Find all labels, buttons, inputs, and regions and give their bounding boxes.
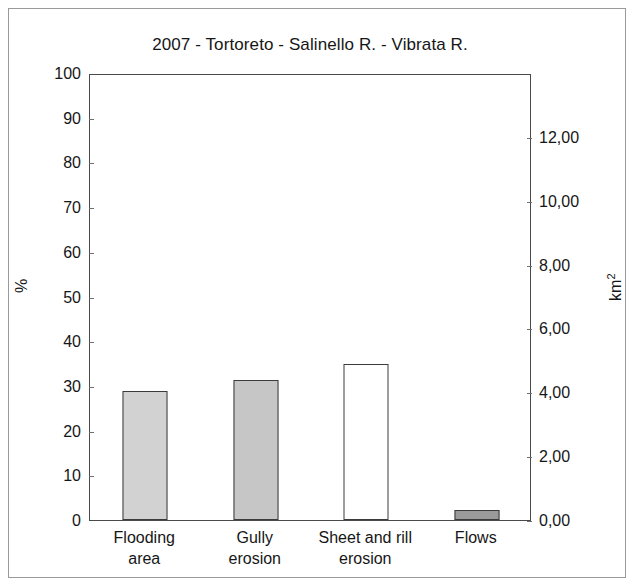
y-axis-left-tick-label: 20 [37, 423, 81, 441]
y-axis-right-tick-label: 0,00 [539, 512, 601, 530]
y-axis-right-tick-label: 8,00 [539, 257, 601, 275]
y-axis-right-tick-label: 12,00 [539, 129, 601, 147]
y-axis-left-tick-mark [89, 163, 94, 164]
y-axis-left-tick-label: 80 [37, 154, 81, 172]
chart-title: 2007 - Tortoreto - Salinello R. - Vibrat… [89, 35, 531, 55]
y-axis-left-tick-label: 0 [37, 512, 81, 530]
y-axis-right-tick-mark [527, 202, 532, 203]
figure-frame: 2007 - Tortoreto - Salinello R. - Vibrat… [8, 8, 626, 578]
bar-slot [201, 75, 312, 520]
y-axis-left-tick-mark [89, 432, 94, 433]
y-axis-left-tick-mark [89, 387, 94, 388]
category-axis-labels: FloodingareaGullyerosionSheet and riller… [89, 527, 531, 575]
y-axis-left-tick-label: 70 [37, 199, 81, 217]
category-label-line: Flows [411, 527, 541, 548]
y-axis-left-tick-label: 50 [37, 289, 81, 307]
y-axis-right-tick-label: 6,00 [539, 320, 601, 338]
y-axis-right-tick-mark [527, 138, 532, 139]
y-axis-left-tick-mark [89, 119, 94, 120]
y-axis-right-tick-mark [527, 521, 532, 522]
y-axis-left-ticks: 0102030405060708090100 [29, 74, 81, 521]
y-axis-left-tick-label: 40 [37, 333, 81, 351]
y-axis-left-tick-mark [89, 208, 94, 209]
bar-slot [311, 75, 422, 520]
y-axis-left-tick-label: 30 [37, 378, 81, 396]
y-axis-left-tick-label: 90 [37, 110, 81, 128]
y-axis-label-left: % [13, 279, 31, 293]
bar-flooding-area[interactable] [123, 391, 168, 520]
y-axis-label-right-superscript: 2 [605, 273, 617, 279]
plot-area [89, 74, 531, 521]
y-axis-label-right-text: km [607, 280, 624, 301]
y-axis-right-tick-mark [527, 457, 532, 458]
category-label-line: erosion [300, 548, 430, 569]
bar-slot [90, 75, 201, 520]
category-label-flows: Flows [411, 527, 541, 548]
y-axis-left-tick-label: 60 [37, 244, 81, 262]
bar-gully-erosion[interactable] [233, 380, 278, 520]
y-axis-left-tick-mark [89, 342, 94, 343]
y-axis-left-tick-mark [89, 476, 94, 477]
y-axis-right-tick-label: 10,00 [539, 193, 601, 211]
y-axis-label-right: km2 [605, 273, 625, 300]
y-axis-right-tick-label: 4,00 [539, 384, 601, 402]
y-axis-left-tick-label: 10 [37, 467, 81, 485]
y-axis-right-tick-mark [527, 329, 532, 330]
y-axis-left-tick-mark [89, 253, 94, 254]
y-axis-right-tick-label: 2,00 [539, 448, 601, 466]
y-axis-right-tick-mark [527, 266, 532, 267]
y-axis-left-tick-mark [89, 298, 94, 299]
bar-flows[interactable] [454, 510, 499, 520]
y-axis-right-tick-mark [527, 393, 532, 394]
bars-layer [90, 75, 530, 520]
y-axis-left-tick-label: 100 [37, 65, 81, 83]
bar-slot [422, 75, 533, 520]
y-axis-right-ticks: 0,002,004,006,008,0010,0012,00 [539, 74, 601, 521]
bar-sheet-and-rill-erosion[interactable] [344, 364, 389, 520]
